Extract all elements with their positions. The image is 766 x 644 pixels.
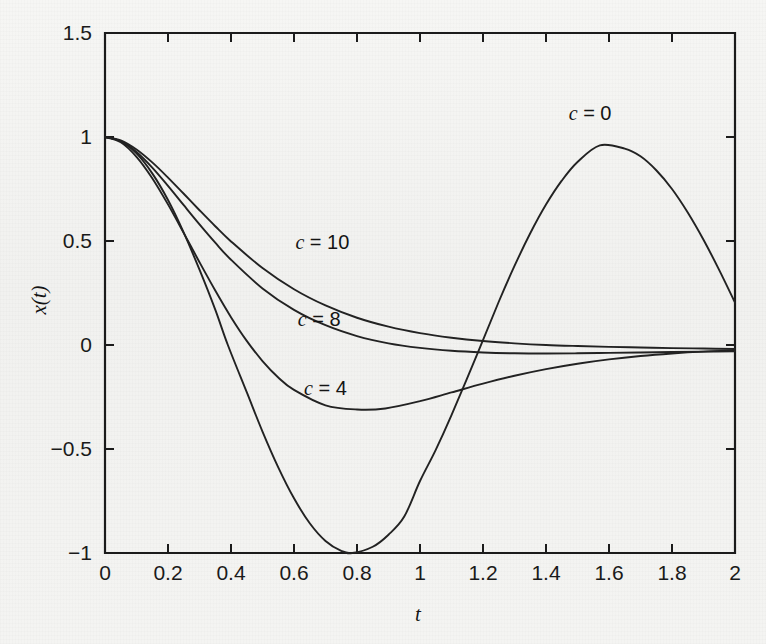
figure-damped-oscillator: 00.20.40.60.811.21.41.61.82 −1−0.500.511… [0, 0, 766, 644]
curve-c4 [105, 137, 735, 410]
x-tick-label: 1.2 [468, 561, 497, 584]
curve-label: c = 8 [298, 308, 341, 330]
y-tick-label: 0.5 [63, 229, 92, 252]
x-tick-label: 0.4 [216, 561, 246, 584]
x-axis-tick-labels: 00.20.40.60.811.21.41.61.82 [99, 561, 741, 584]
curve-annotations: c = 0c = 10c = 8c = 4 [295, 102, 611, 399]
x-tick-label: 1.4 [531, 561, 561, 584]
y-tick-label: 1 [80, 125, 92, 148]
y-axis-label: x(t) [27, 285, 51, 315]
curve-label: c = 10 [295, 231, 349, 253]
curve-label: c = 0 [569, 102, 612, 124]
y-tick-label: −0.5 [51, 437, 92, 460]
plot-area: 00.20.40.60.811.21.41.61.82 −1−0.500.511… [0, 0, 766, 644]
curve-c8 [105, 137, 735, 354]
x-tick-label: 1.8 [657, 561, 686, 584]
y-tick-label: 0 [80, 333, 92, 356]
x-axis-ticks [105, 33, 735, 553]
x-tick-label: 0 [99, 561, 111, 584]
curve-label: c = 4 [304, 377, 347, 399]
curve-c10 [105, 137, 735, 349]
y-axis-tick-labels: −1−0.500.511.5 [51, 21, 92, 564]
y-axis-ticks [105, 33, 735, 553]
x-tick-label: 0.6 [279, 561, 308, 584]
axis-frame [105, 33, 735, 553]
data-curves [105, 137, 735, 553]
x-tick-label: 2 [729, 561, 741, 584]
x-tick-label: 1 [414, 561, 426, 584]
x-axis-label: t [415, 602, 422, 626]
x-tick-label: 1.6 [594, 561, 623, 584]
x-tick-label: 0.2 [153, 561, 182, 584]
curve-c0 [105, 137, 735, 553]
y-tick-label: 1.5 [63, 21, 92, 44]
x-tick-label: 0.8 [342, 561, 371, 584]
y-tick-label: −1 [68, 541, 92, 564]
